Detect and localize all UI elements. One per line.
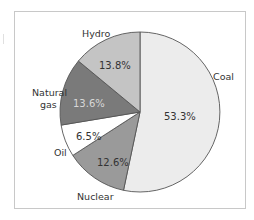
label-hydro: Hydro — [82, 28, 110, 39]
label-natural-gas-line1: Natural — [32, 87, 67, 98]
label-oil: Oil — [54, 147, 67, 158]
pie-chart: Coal Nuclear Oil Natural gas Hydro 53.3%… — [0, 0, 254, 220]
percent-natural-gas: 13.6% — [73, 98, 105, 109]
label-natural-gas-line2: gas — [40, 99, 57, 110]
percent-nuclear: 12.6% — [97, 157, 129, 168]
percent-hydro: 13.8% — [99, 60, 131, 71]
percent-coal: 53.3% — [164, 111, 196, 122]
percent-oil: 6.5% — [76, 131, 101, 142]
label-coal: Coal — [213, 71, 234, 82]
label-nuclear: Nuclear — [77, 191, 114, 202]
